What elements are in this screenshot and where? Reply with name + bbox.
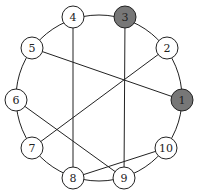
node-1: 1 xyxy=(171,89,193,111)
node-6: 6 xyxy=(5,89,27,111)
node-9: 9 xyxy=(113,167,135,189)
node-7: 7 xyxy=(21,137,43,159)
node-label: 6 xyxy=(13,94,20,107)
node-label: 4 xyxy=(70,11,77,24)
graph-nodes: 12345678910 xyxy=(5,6,193,189)
edge-2-7 xyxy=(32,48,167,148)
node-label: 9 xyxy=(121,172,128,185)
node-label: 2 xyxy=(164,42,171,55)
node-label: 1 xyxy=(179,94,186,107)
node-2: 2 xyxy=(156,37,178,59)
node-label: 7 xyxy=(29,142,36,155)
node-label: 10 xyxy=(159,142,173,155)
node-4: 4 xyxy=(62,6,84,28)
node-3: 3 xyxy=(114,6,136,28)
node-5: 5 xyxy=(21,37,43,59)
node-label: 8 xyxy=(70,172,77,185)
node-10: 10 xyxy=(155,137,177,159)
circular-graph-diagram: 12345678910 xyxy=(0,0,200,195)
node-label: 3 xyxy=(122,11,129,24)
node-8: 8 xyxy=(62,167,84,189)
edge-3-9 xyxy=(124,17,125,178)
node-label: 5 xyxy=(29,42,36,55)
